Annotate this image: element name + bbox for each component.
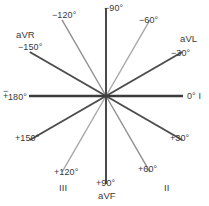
- label-zero-lead-I: 0° I: [187, 91, 201, 101]
- label-180-value: 180°: [8, 92, 27, 102]
- label-lead-II: II: [164, 183, 169, 193]
- label-neg-30: −30°: [171, 48, 190, 58]
- label-neg-90: −90°: [104, 3, 123, 13]
- label-pos-30: +30°: [170, 133, 189, 143]
- axis-line-+60: [106, 96, 150, 172]
- axis-line--150: [30, 52, 106, 96]
- axis-line-+120: [62, 96, 106, 172]
- label-pos-150: +150°: [15, 133, 39, 143]
- axis-line-+150: [30, 96, 106, 140]
- label-pos-60: +60°: [138, 164, 157, 174]
- label-lead-aVF: aVF: [98, 191, 116, 201]
- label-neg-150: −150°: [18, 42, 42, 52]
- label-lead-III: III: [59, 183, 67, 193]
- plusminus-bottom-glyph: +: [3, 92, 8, 101]
- label-pos-120: +120°: [54, 167, 78, 177]
- axis-line--30: [106, 52, 182, 96]
- label-neg-60: −60°: [139, 15, 158, 25]
- label-lead-aVL: aVL: [180, 34, 197, 44]
- hexaxial-reference-diagram: −120° −90° −60° aVR −150° aVL −30° − + 1…: [0, 0, 209, 206]
- axis-line--120: [62, 20, 106, 96]
- axis-line--60: [106, 20, 150, 96]
- label-pos-90: +90°: [96, 178, 115, 188]
- label-lead-aVR: aVR: [16, 30, 35, 40]
- plusminus-sign: − +: [3, 90, 8, 100]
- label-plusminus-180: − + 180°: [3, 90, 27, 102]
- label-neg-120: −120°: [52, 10, 76, 20]
